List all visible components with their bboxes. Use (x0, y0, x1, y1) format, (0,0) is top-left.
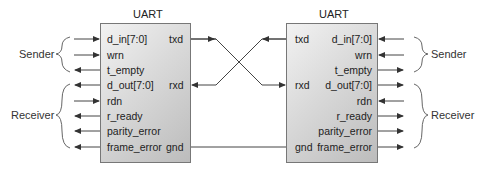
right-pin-gnd: gnd (295, 141, 313, 153)
left-port-d-out: d_out[7:0] (107, 79, 154, 91)
left-port-r-ready: r_ready (107, 110, 143, 122)
right-pin-txd: txd (295, 33, 309, 45)
right-receiver-label: Receiver (431, 109, 474, 121)
left-uart-title: UART (133, 8, 163, 20)
right-sender-label: Sender (431, 48, 466, 60)
right-port-d-out: d_out[7:0] (325, 79, 372, 91)
right-uart-title: UART (319, 8, 349, 20)
right-port-wrn: wrn (355, 49, 372, 61)
left-pin-txd: txd (169, 33, 183, 45)
left-sender-brace (56, 37, 70, 72)
right-port-parity-error: parity_error (318, 125, 372, 137)
right-txd-cross (192, 39, 286, 85)
right-receiver-brace (414, 84, 428, 148)
right-port-d-in: d_in[7:0] (332, 33, 372, 45)
left-port-wrn: wrn (107, 49, 124, 61)
right-port-rdn: rdn (357, 95, 372, 107)
left-port-rdn: rdn (107, 95, 122, 107)
right-sender-brace (414, 37, 428, 72)
left-sender-label: Sender (19, 48, 54, 60)
left-port-t-empty: t_empty (107, 64, 144, 76)
left-receiver-brace (56, 84, 70, 148)
left-txd-cross (211, 39, 285, 85)
right-port-r-ready: r_ready (336, 110, 372, 122)
right-port-frame-error: frame_error (317, 141, 372, 153)
right-port-t-empty: t_empty (335, 64, 372, 76)
uart-connection-diagram (0, 0, 485, 175)
right-pin-rxd: rxd (295, 79, 310, 91)
left-port-frame-error: frame_error (107, 141, 162, 153)
left-pin-gnd: gnd (166, 141, 184, 153)
left-receiver-label: Receiver (11, 109, 54, 121)
left-port-parity-error: parity_error (107, 125, 161, 137)
left-pin-rxd: rxd (169, 79, 184, 91)
left-port-d-in: d_in[7:0] (107, 33, 147, 45)
